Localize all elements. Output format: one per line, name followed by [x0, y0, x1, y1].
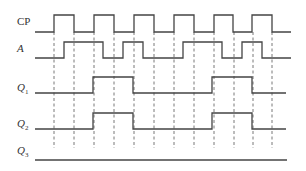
waveform-cp [35, 15, 291, 32]
signal-label-q3: Q3 [17, 144, 29, 159]
signal-labels: CPAQ1Q2Q3 [16, 15, 30, 159]
signal-label-q2: Q2 [17, 117, 29, 132]
signal-label-a: A [16, 42, 24, 54]
waveform-q1 [35, 77, 286, 93]
clock-edge-guide-lines [54, 32, 272, 148]
timing-diagram: CPAQ1Q2Q3 [0, 0, 306, 171]
waveform-q2 [35, 113, 286, 129]
signal-label-q1: Q1 [17, 81, 29, 96]
signal-label-cp: CP [17, 15, 30, 27]
